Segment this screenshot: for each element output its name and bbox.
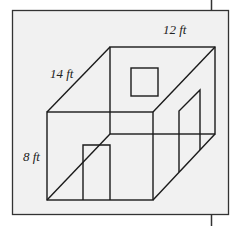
room-diagram <box>0 0 236 226</box>
width-label: 12 ft <box>163 23 186 36</box>
height-label: 8 ft <box>23 150 40 163</box>
length-label: 14 ft <box>50 67 73 80</box>
diagram-stage: 12 ft 14 ft 8 ft <box>0 0 236 226</box>
